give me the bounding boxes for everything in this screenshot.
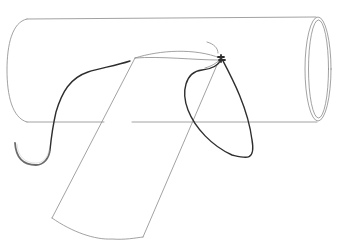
suture-loop: [185, 59, 253, 157]
surgical-diagram: [0, 0, 339, 249]
needle-icon: [15, 143, 50, 165]
suture-trailing-thread: [50, 61, 130, 150]
graft-right-edge: [143, 58, 220, 237]
graft-top-edge-inner: [135, 57, 218, 60]
vessel-cylinder: [7, 17, 331, 122]
illustration-canvas: Line illustration of a tubular vessel wi…: [0, 0, 339, 249]
vessel-left-cap: [7, 19, 27, 122]
curved-needle: [15, 143, 50, 165]
suture-tail-arc: [207, 42, 218, 53]
graft-bottom-edge: [52, 218, 143, 239]
vessel-top-edge: [27, 17, 316, 19]
graft-left-edge: [52, 58, 135, 218]
graft-strip: [52, 51, 220, 239]
vessel-opening-inner: [309, 20, 329, 118]
graft-top-edge: [135, 51, 220, 58]
